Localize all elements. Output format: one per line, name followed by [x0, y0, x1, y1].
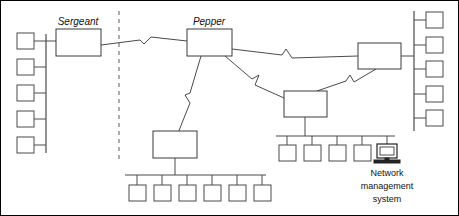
nms-label-line-2: management: [361, 181, 414, 191]
right-vertical-bus-group: [401, 11, 443, 131]
router-sergeant[interactable]: [56, 29, 101, 56]
list-item[interactable]: [17, 59, 34, 75]
link-pepper-right-router: [232, 49, 358, 58]
list-item[interactable]: [426, 110, 443, 126]
list-item[interactable]: [279, 145, 296, 161]
list-item[interactable]: [254, 185, 271, 201]
list-item[interactable]: [229, 185, 246, 201]
list-item[interactable]: [204, 185, 221, 201]
list-item[interactable]: [179, 185, 196, 201]
network-diagram-canvas: Sergeant Pepper: [0, 0, 459, 216]
list-item[interactable]: [17, 33, 34, 49]
wan-zigzag-icon: [178, 56, 201, 133]
link-pepper-center-router: [225, 56, 284, 98]
wan-zigzag-icon: [232, 49, 358, 58]
link-pepper-lower-left-router: [178, 56, 201, 133]
list-item[interactable]: [17, 137, 34, 153]
wan-zigzag-icon: [225, 56, 284, 98]
network-topology-svg: Sergeant Pepper: [1, 1, 458, 215]
bottom-left-bus-group: [125, 158, 271, 201]
wan-zigzag-icon: [317, 69, 376, 91]
list-item[interactable]: [426, 12, 443, 28]
router-pepper[interactable]: [187, 29, 232, 56]
router-pepper-label: Pepper: [193, 16, 226, 27]
list-item[interactable]: [17, 111, 34, 127]
router-right[interactable]: [358, 43, 401, 69]
computer-monitor-icon[interactable]: [374, 144, 400, 163]
list-item[interactable]: [426, 61, 443, 77]
link-center-router-right-router: [317, 69, 376, 91]
bottom-center-bus-group: [276, 117, 400, 163]
nms-label-line-1: Network: [370, 168, 404, 178]
list-item[interactable]: [329, 145, 346, 161]
wan-zigzag-icon: [101, 37, 187, 45]
list-item[interactable]: [426, 86, 443, 102]
router-sergeant-group: Sergeant: [46, 16, 101, 56]
list-item[interactable]: [426, 37, 443, 53]
router-sergeant-label: Sergeant: [58, 16, 100, 27]
list-item[interactable]: [129, 185, 146, 201]
list-item[interactable]: [154, 185, 171, 201]
link-sergeant-pepper: [101, 37, 187, 45]
router-center[interactable]: [284, 91, 327, 117]
list-item[interactable]: [304, 145, 321, 161]
list-item[interactable]: [17, 85, 34, 101]
list-item[interactable]: [354, 145, 371, 161]
router-pepper-group: Pepper: [187, 16, 232, 56]
left-vertical-bus-group: [17, 33, 46, 153]
nms-label-group: Network management system: [361, 168, 414, 204]
nms-label-line-3: system: [373, 194, 402, 204]
router-lower-left[interactable]: [153, 131, 197, 158]
